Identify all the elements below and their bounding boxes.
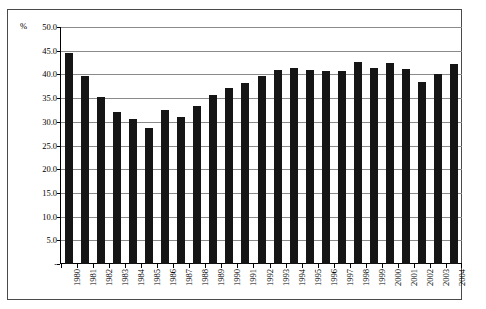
x-axis-label-1992: 1992 bbox=[266, 269, 275, 286]
bar-1986 bbox=[161, 110, 169, 264]
x-axis-label-1999: 1999 bbox=[378, 269, 387, 286]
x-axis-tick bbox=[461, 264, 462, 268]
y-axis-tick bbox=[57, 264, 60, 265]
bar-1991 bbox=[241, 83, 249, 264]
x-axis-tick bbox=[77, 264, 78, 268]
x-axis-label-2001: 2001 bbox=[410, 269, 419, 286]
x-axis-label-1983: 1983 bbox=[121, 269, 130, 286]
x-axis-tick bbox=[141, 264, 142, 268]
x-axis-label-1990: 1990 bbox=[233, 269, 242, 286]
x-axis-label-1995: 1995 bbox=[314, 269, 323, 286]
x-axis-label-1989: 1989 bbox=[217, 269, 226, 286]
x-axis-tick bbox=[109, 264, 110, 268]
x-axis-tick bbox=[286, 264, 287, 268]
bar-2004 bbox=[450, 64, 458, 264]
x-axis-tick bbox=[125, 264, 126, 268]
bar-1994 bbox=[290, 68, 298, 264]
bar-1995 bbox=[306, 70, 314, 264]
bar-2000 bbox=[386, 63, 394, 264]
x-axis-tick bbox=[221, 264, 222, 268]
x-axis-tick bbox=[382, 264, 383, 268]
x-axis-tick bbox=[350, 264, 351, 268]
x-axis-tick bbox=[61, 264, 62, 268]
bar-1981 bbox=[81, 76, 89, 264]
bar-1988 bbox=[193, 106, 201, 264]
x-axis-label-1991: 1991 bbox=[249, 269, 258, 286]
bar-1993 bbox=[274, 70, 282, 264]
x-axis-tick bbox=[93, 264, 94, 268]
x-axis-label-1982: 1982 bbox=[105, 269, 114, 286]
x-axis-label-1994: 1994 bbox=[298, 269, 307, 286]
x-axis-label-1996: 1996 bbox=[330, 269, 339, 286]
x-axis-label-1981: 1981 bbox=[89, 269, 98, 286]
x-axis-label-1984: 1984 bbox=[137, 269, 146, 286]
bar-1999 bbox=[370, 68, 378, 264]
bar-1989 bbox=[209, 95, 217, 264]
bar-2001 bbox=[402, 69, 410, 264]
x-axis-label-1988: 1988 bbox=[201, 269, 210, 286]
bar-1990 bbox=[225, 88, 233, 264]
x-axis-tick bbox=[366, 264, 367, 268]
x-axis-tick bbox=[205, 264, 206, 268]
x-axis-label-1987: 1987 bbox=[185, 269, 194, 286]
x-axis-tick bbox=[270, 264, 271, 268]
x-axis-tick bbox=[173, 264, 174, 268]
bar-1996 bbox=[322, 71, 330, 264]
bar-2003 bbox=[434, 74, 442, 264]
x-axis-label-2002: 2002 bbox=[426, 269, 435, 286]
x-axis-label-2000: 2000 bbox=[394, 269, 403, 286]
x-axis-label-2004: 2004 bbox=[458, 269, 467, 286]
x-axis-tick bbox=[430, 264, 431, 268]
x-axis-label-1997: 1997 bbox=[346, 269, 355, 286]
x-axis-label-1986: 1986 bbox=[169, 269, 178, 286]
x-axis-tick bbox=[237, 264, 238, 268]
x-axis-label-1998: 1998 bbox=[362, 269, 371, 286]
bar-2002 bbox=[418, 82, 426, 264]
x-axis-tick-labels: 1980198119821983198419851986198719881989… bbox=[61, 269, 462, 305]
bar-1982 bbox=[97, 97, 105, 264]
x-axis-tick bbox=[253, 264, 254, 268]
bar-1998 bbox=[354, 62, 362, 264]
bar-1997 bbox=[338, 71, 346, 264]
y-axis-ticks bbox=[0, 27, 60, 264]
x-axis-label-1993: 1993 bbox=[282, 269, 291, 286]
bar-1983 bbox=[113, 112, 121, 264]
x-axis-label-1985: 1985 bbox=[153, 269, 162, 286]
x-axis-tick bbox=[414, 264, 415, 268]
x-axis-tick bbox=[302, 264, 303, 268]
x-axis-label-2003: 2003 bbox=[442, 269, 451, 286]
bar-series bbox=[61, 27, 462, 264]
bar-1992 bbox=[258, 76, 266, 264]
bar-1984 bbox=[129, 119, 137, 264]
bar-1987 bbox=[177, 117, 185, 264]
x-axis-label-1980: 1980 bbox=[73, 269, 82, 286]
bar-1980 bbox=[65, 53, 73, 264]
x-axis-tick bbox=[334, 264, 335, 268]
x-axis-tick bbox=[446, 264, 447, 268]
x-axis-tick bbox=[157, 264, 158, 268]
bar-1985 bbox=[145, 128, 153, 265]
x-axis-tick bbox=[189, 264, 190, 268]
chart-figure: % -5.010.015.020.025.030.035.040.045.050… bbox=[0, 0, 486, 309]
x-axis-tick bbox=[398, 264, 399, 268]
x-axis-tick bbox=[318, 264, 319, 268]
